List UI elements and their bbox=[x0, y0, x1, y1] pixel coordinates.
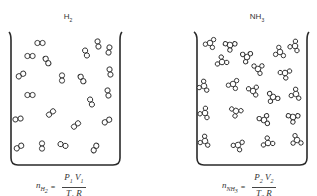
h2-formula: nH2 = P1 V1 T1 R bbox=[36, 172, 86, 196]
h2-numerator: P1 V1 bbox=[62, 172, 85, 188]
nh3-molecule bbox=[289, 132, 303, 147]
h2-molecule bbox=[42, 55, 52, 67]
h2-molecule bbox=[105, 87, 112, 98]
r-symbol: R bbox=[266, 188, 272, 196]
h2-formula-lhs: nH2 bbox=[36, 180, 48, 194]
nh3-molecule bbox=[251, 62, 265, 77]
nh3-container bbox=[194, 32, 309, 165]
h2-molecule bbox=[13, 142, 25, 152]
h2-molecule bbox=[25, 92, 35, 97]
h2-molecule bbox=[70, 120, 81, 131]
r-symbol: R bbox=[76, 188, 82, 196]
h2-container bbox=[9, 32, 122, 165]
h2-molecule bbox=[57, 141, 69, 149]
nh3-formula-lhs: nNH3 bbox=[222, 180, 238, 194]
nh3-molecule bbox=[203, 37, 216, 49]
v-subscript: 2 bbox=[271, 178, 274, 184]
nh3-molecule bbox=[264, 88, 281, 105]
nh3-molecule bbox=[230, 138, 245, 152]
h2-molecule bbox=[15, 70, 27, 80]
h2-molecule bbox=[87, 96, 95, 108]
t-subscript: 1 bbox=[71, 194, 74, 196]
h2-molecules bbox=[12, 38, 113, 153]
nh3-molecule bbox=[256, 112, 273, 129]
h2-molecule bbox=[25, 53, 35, 58]
nh3-molecule bbox=[261, 135, 277, 151]
nh3-molecule bbox=[284, 109, 301, 126]
v-subscript: 1 bbox=[81, 178, 84, 184]
nh3-molecule bbox=[197, 133, 211, 148]
h2-molecule bbox=[95, 38, 102, 49]
lhs-subsubscript: 2 bbox=[45, 188, 48, 194]
nh3-formula: nNH3 = P2 V2 T2 R bbox=[222, 172, 276, 196]
h2-molecule bbox=[59, 73, 64, 83]
nh3-molecule bbox=[215, 54, 231, 70]
nh3-denominator: T2 R bbox=[254, 188, 274, 196]
h2-molecule bbox=[35, 40, 45, 45]
nh3-molecule bbox=[227, 102, 244, 119]
equals-sign: = bbox=[241, 183, 246, 192]
nh3-molecule bbox=[239, 48, 256, 65]
nh3-molecules bbox=[196, 37, 303, 153]
nh3-molecule bbox=[273, 45, 285, 58]
nh3-fraction: P2 V2 T2 R bbox=[252, 172, 275, 196]
nh3-molecule bbox=[287, 37, 303, 53]
diagram-canvas bbox=[0, 0, 317, 196]
h2-molecule bbox=[90, 142, 100, 154]
h2-molecule bbox=[101, 116, 113, 126]
h2-molecule bbox=[107, 66, 114, 77]
h2-molecule bbox=[82, 47, 90, 59]
nh3-molecule bbox=[197, 104, 213, 120]
p-subscript: 1 bbox=[70, 178, 73, 184]
h2-molecule bbox=[12, 116, 23, 123]
lhs-subsubscript: 3 bbox=[235, 188, 238, 194]
t-subscript: 2 bbox=[261, 194, 264, 196]
h2-molecule bbox=[45, 108, 56, 119]
equals-sign: = bbox=[51, 183, 56, 192]
nh3-molecule bbox=[226, 78, 239, 90]
h2-molecule bbox=[39, 141, 44, 151]
nh3-numerator: P2 V2 bbox=[252, 172, 275, 188]
nh3-molecule bbox=[196, 78, 210, 93]
h2-molecule bbox=[106, 44, 113, 55]
lhs-subscript: NH bbox=[227, 186, 235, 192]
p-subscript: 2 bbox=[260, 178, 263, 184]
h2-fraction: P1 V1 T1 R bbox=[62, 172, 85, 196]
nh3-molecule bbox=[288, 86, 302, 101]
nh3-molecule bbox=[221, 37, 238, 54]
h2-denominator: T1 R bbox=[64, 188, 84, 196]
h2-molecule bbox=[77, 73, 87, 85]
nh3-molecule bbox=[246, 83, 262, 99]
nh3-molecule bbox=[276, 65, 292, 81]
